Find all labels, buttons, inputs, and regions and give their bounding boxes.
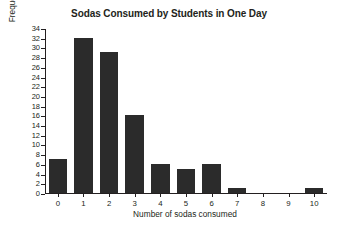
y-tick-mark — [41, 175, 45, 176]
y-tick-label: 24 — [32, 73, 40, 82]
y-tick-label: 6 — [36, 160, 40, 169]
y-tick-mark — [41, 68, 45, 69]
x-tick-mark — [83, 194, 84, 197]
x-tick-mark — [263, 194, 264, 197]
x-tick-mark — [314, 194, 315, 197]
y-tick-mark — [41, 136, 45, 137]
y-tick-mark — [41, 58, 45, 59]
y-tick-mark — [41, 116, 45, 117]
x-tick-label: 8 — [253, 199, 273, 208]
y-tick-label: 26 — [32, 63, 40, 72]
y-axis-label: Frequency of number of sodas — [7, 0, 19, 45]
x-tick-label: 5 — [176, 199, 196, 208]
bar-6 — [202, 164, 220, 193]
chart-title: Sodas Consumed by Students in One Day — [0, 8, 338, 19]
bar-1 — [74, 38, 92, 193]
y-tick-mark — [41, 29, 45, 30]
y-tick-label: 8 — [36, 150, 40, 159]
x-tick-mark — [186, 194, 187, 197]
bar-chart-figure: Sodas Consumed by Students in One Day Fr… — [0, 0, 338, 229]
x-tick-mark — [160, 194, 161, 197]
y-tick-label: 18 — [32, 102, 40, 111]
y-tick-mark — [41, 126, 45, 127]
y-tick-mark — [41, 97, 45, 98]
y-tick-label: 30 — [32, 43, 40, 52]
y-tick-label: 2 — [36, 179, 40, 188]
x-tick-label: 9 — [279, 199, 299, 208]
y-tick-mark — [41, 165, 45, 166]
y-tick-mark — [41, 145, 45, 146]
x-tick-label: 7 — [227, 199, 247, 208]
bar-0 — [49, 159, 67, 193]
y-tick-label: 4 — [36, 170, 40, 179]
bar-2 — [100, 52, 118, 193]
x-tick-mark — [109, 194, 110, 197]
y-tick-mark — [41, 48, 45, 49]
x-tick-label: 2 — [99, 199, 119, 208]
x-tick-mark — [58, 194, 59, 197]
y-tick-label: 14 — [32, 121, 40, 130]
bar-4 — [151, 164, 169, 193]
x-tick-mark — [212, 194, 213, 197]
y-tick-label: 28 — [32, 53, 40, 62]
x-tick-mark — [289, 194, 290, 197]
bar-5 — [177, 169, 195, 193]
plot-area: 0246810121416182022242628303234 01234567… — [45, 29, 327, 194]
y-tick-mark — [41, 184, 45, 185]
x-tick-label: 0 — [48, 199, 68, 208]
x-tick-label: 6 — [202, 199, 222, 208]
y-tick-label: 16 — [32, 111, 40, 120]
y-tick-mark — [41, 87, 45, 88]
y-tick-label: 10 — [32, 140, 40, 149]
x-tick-label: 3 — [125, 199, 145, 208]
y-tick-mark — [41, 155, 45, 156]
y-tick-label: 22 — [32, 82, 40, 91]
x-tick-label: 10 — [304, 199, 324, 208]
y-tick-label: 20 — [32, 92, 40, 101]
x-tick-label: 1 — [73, 199, 93, 208]
y-tick-label: 34 — [32, 24, 40, 33]
y-tick-mark — [41, 107, 45, 108]
bar-3 — [125, 115, 143, 193]
y-axis-line — [45, 29, 46, 194]
x-tick-mark — [135, 194, 136, 197]
x-axis-label: Number of sodas consumed — [40, 209, 330, 219]
x-tick-mark — [237, 194, 238, 197]
x-tick-label: 4 — [150, 199, 170, 208]
bar-10 — [305, 188, 323, 193]
y-tick-mark — [41, 39, 45, 40]
bar-7 — [228, 188, 246, 193]
y-tick-label: 12 — [32, 131, 40, 140]
y-tick-label: 32 — [32, 34, 40, 43]
y-tick-mark — [41, 194, 45, 195]
y-tick-mark — [41, 78, 45, 79]
y-tick-label: 0 — [36, 189, 40, 198]
